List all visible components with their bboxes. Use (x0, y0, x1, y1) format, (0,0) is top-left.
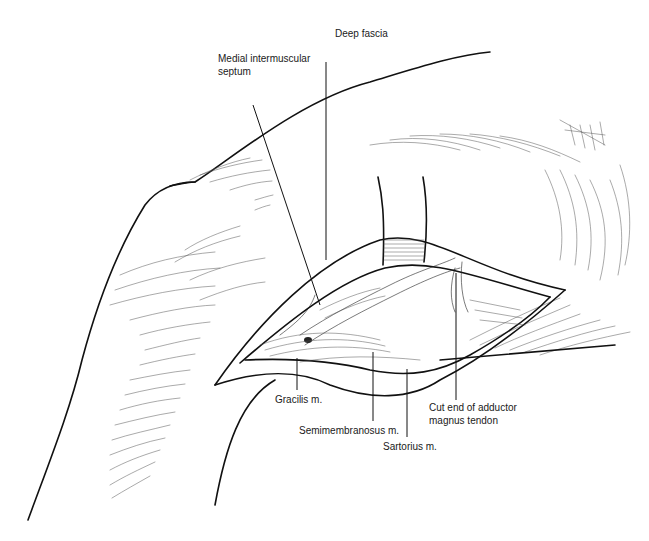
line-drawing (0, 0, 649, 541)
adductor-tendon-cut (451, 262, 468, 312)
label-adductor-line2: magnus tendon (429, 414, 517, 427)
wound-inner-lower (245, 297, 550, 374)
label-deep-fascia: Deep fascia (335, 27, 388, 40)
label-medial-intermuscular-septum: Medial intermuscular septum (218, 52, 310, 78)
label-septum-line2: septum (218, 65, 310, 78)
anatomy-illustration: Deep fascia Medial intermuscular septum … (0, 0, 649, 541)
retractor-left-edge (378, 177, 384, 265)
retractor-right-edge (423, 177, 427, 262)
femoral-vessel-lower (305, 268, 460, 345)
label-septum-line1: Medial intermuscular (218, 52, 310, 65)
vessel-lumen (304, 337, 312, 343)
incision-lower-edge (215, 290, 565, 396)
label-sartorius: Sartorius m. (383, 440, 437, 453)
label-adductor-line1: Cut end of adductor (429, 401, 517, 414)
calf-contour (215, 380, 275, 505)
retractor-shading (384, 240, 424, 260)
label-gracilis: Gracilis m. (275, 393, 322, 406)
wound-muscle-fibers (260, 288, 525, 362)
wound-inner-upper (240, 265, 550, 363)
label-semimembranosus: Semimembranosus m. (299, 424, 399, 437)
leader-septum (253, 105, 320, 305)
label-adductor-magnus-tendon: Cut end of adductor magnus tendon (429, 401, 517, 427)
